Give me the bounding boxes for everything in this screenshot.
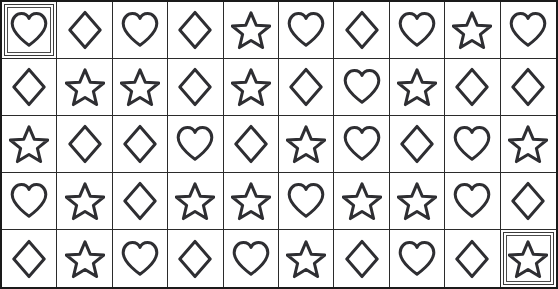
star-icon	[342, 181, 382, 221]
grid-cell-r3-c8[interactable]	[390, 116, 445, 173]
diamond-icon	[231, 124, 271, 164]
grid-cell-r1-c1[interactable]	[2, 2, 57, 59]
grid-cell-r2-c10[interactable]	[501, 59, 556, 116]
grid-cell-r3-c7[interactable]	[334, 116, 389, 173]
heart-icon	[175, 124, 215, 164]
heart-icon	[397, 239, 437, 279]
diamond-icon	[452, 239, 492, 279]
star-icon	[397, 67, 437, 107]
heart-icon	[342, 67, 382, 107]
grid-cell-r5-c5[interactable]	[224, 230, 279, 287]
star-icon	[508, 239, 548, 279]
heart-icon	[286, 10, 326, 50]
grid-cell-r3-c2[interactable]	[57, 116, 112, 173]
diamond-icon	[508, 181, 548, 221]
grid-cell-r4-c7[interactable]	[334, 173, 389, 230]
diamond-icon	[175, 10, 215, 50]
star-icon	[65, 239, 105, 279]
heart-icon	[397, 10, 437, 50]
grid-cell-r2-c2[interactable]	[57, 59, 112, 116]
star-icon	[65, 67, 105, 107]
grid-cell-r4-c10[interactable]	[501, 173, 556, 230]
star-icon	[9, 124, 49, 164]
diamond-icon	[65, 10, 105, 50]
heart-icon	[9, 10, 49, 50]
grid-cell-r1-c9[interactable]	[445, 2, 500, 59]
heart-icon	[286, 181, 326, 221]
star-icon	[231, 181, 271, 221]
diamond-icon	[175, 67, 215, 107]
grid-cell-r3-c1[interactable]	[2, 116, 57, 173]
grid-cell-r4-c3[interactable]	[113, 173, 168, 230]
grid-cell-r1-c10[interactable]	[501, 2, 556, 59]
grid-cell-r5-c4[interactable]	[168, 230, 223, 287]
grid-cell-r2-c7[interactable]	[334, 59, 389, 116]
grid-cell-r2-c6[interactable]	[279, 59, 334, 116]
star-icon	[452, 10, 492, 50]
grid-cell-r4-c9[interactable]	[445, 173, 500, 230]
heart-icon	[120, 10, 160, 50]
grid-cell-r4-c8[interactable]	[390, 173, 445, 230]
grid-cell-r2-c5[interactable]	[224, 59, 279, 116]
grid-cell-r1-c7[interactable]	[334, 2, 389, 59]
grid-cell-r5-c2[interactable]	[57, 230, 112, 287]
grid-cell-r4-c1[interactable]	[2, 173, 57, 230]
grid-cell-r3-c10[interactable]	[501, 116, 556, 173]
grid-cell-r1-c3[interactable]	[113, 2, 168, 59]
grid-cell-r4-c4[interactable]	[168, 173, 223, 230]
grid-cell-r2-c8[interactable]	[390, 59, 445, 116]
star-icon	[508, 124, 548, 164]
star-icon	[231, 67, 271, 107]
diamond-icon	[120, 181, 160, 221]
diamond-icon	[65, 124, 105, 164]
diamond-icon	[508, 67, 548, 107]
grid-cell-r4-c2[interactable]	[57, 173, 112, 230]
grid-cell-r5-c10[interactable]	[501, 230, 556, 287]
grid-cell-r3-c3[interactable]	[113, 116, 168, 173]
heart-icon	[231, 239, 271, 279]
star-icon	[286, 124, 326, 164]
star-icon	[397, 181, 437, 221]
grid-cell-r2-c9[interactable]	[445, 59, 500, 116]
heart-icon	[342, 124, 382, 164]
diamond-icon	[342, 239, 382, 279]
star-icon	[65, 181, 105, 221]
grid-cell-r5-c3[interactable]	[113, 230, 168, 287]
star-icon	[286, 239, 326, 279]
heart-icon	[9, 181, 49, 221]
grid-cell-r2-c1[interactable]	[2, 59, 57, 116]
shape-grid-board[interactable]	[0, 0, 558, 289]
grid-cell-r2-c3[interactable]	[113, 59, 168, 116]
grid-cell-r1-c4[interactable]	[168, 2, 223, 59]
grid-cell-r2-c4[interactable]	[168, 59, 223, 116]
heart-icon	[452, 124, 492, 164]
grid-cell-r5-c6[interactable]	[279, 230, 334, 287]
diamond-icon	[286, 67, 326, 107]
grid-cell-r1-c5[interactable]	[224, 2, 279, 59]
diamond-icon	[120, 124, 160, 164]
grid-cell-r5-c8[interactable]	[390, 230, 445, 287]
grid-cell-r1-c8[interactable]	[390, 2, 445, 59]
grid-cell-r4-c6[interactable]	[279, 173, 334, 230]
grid-cell-r5-c9[interactable]	[445, 230, 500, 287]
heart-icon	[452, 181, 492, 221]
grid-cell-r5-c7[interactable]	[334, 230, 389, 287]
diamond-icon	[342, 10, 382, 50]
star-icon	[120, 67, 160, 107]
star-icon	[175, 181, 215, 221]
grid-cell-r1-c2[interactable]	[57, 2, 112, 59]
star-icon	[231, 10, 271, 50]
grid-cell-r5-c1[interactable]	[2, 230, 57, 287]
diamond-icon	[175, 239, 215, 279]
grid-cell-r3-c9[interactable]	[445, 116, 500, 173]
grid-cell-r4-c5[interactable]	[224, 173, 279, 230]
heart-icon	[508, 10, 548, 50]
diamond-icon	[9, 67, 49, 107]
grid-cell-r3-c6[interactable]	[279, 116, 334, 173]
grid-cell-r1-c6[interactable]	[279, 2, 334, 59]
grid-cell-r3-c5[interactable]	[224, 116, 279, 173]
grid-cell-r3-c4[interactable]	[168, 116, 223, 173]
heart-icon	[120, 239, 160, 279]
diamond-icon	[9, 239, 49, 279]
diamond-icon	[452, 67, 492, 107]
